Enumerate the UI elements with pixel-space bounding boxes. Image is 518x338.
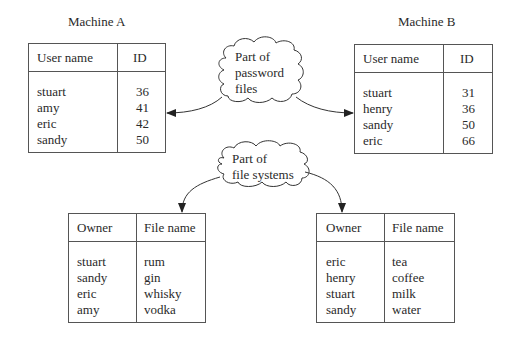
cloud-line: Part of [235, 49, 284, 65]
cloud-line: password [235, 65, 284, 81]
arrow-to-machine-a [167, 97, 222, 113]
arrow-to-files-a [182, 177, 220, 212]
file-systems-cloud-label: Part of file systems [232, 151, 294, 183]
cloud-line: file systems [232, 167, 294, 183]
arrow-to-machine-b [296, 97, 353, 113]
cloud-line: Part of [232, 151, 294, 167]
arrow-to-files-b [305, 172, 342, 212]
cloud-line: files [235, 81, 284, 97]
password-files-cloud-label: Part of password files [235, 49, 284, 97]
